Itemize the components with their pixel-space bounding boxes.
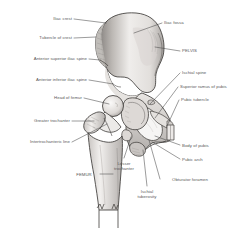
label-pelvis: PELVIS [182, 48, 212, 53]
label-anterior-inferior-iliac-spine: Anterior inferior iliac spine [5, 77, 87, 82]
label-tubercle-of-crest: Tubercle of crest [17, 35, 72, 40]
label-head-of-femur: Head of femur [35, 95, 82, 100]
label-pubic-tubercle: Pubic tubercle [181, 97, 227, 102]
acetabulum-ischium-pubis-group [121, 93, 174, 156]
label-ischial-spine: Ischial spine [182, 70, 222, 75]
label-anterior-superior-iliac-spine: Anterior superior iliac spine [2, 56, 87, 61]
label-iliac-fossa: Iliac fossa [164, 20, 202, 25]
label-iliac-crest: Iliac crest [28, 16, 72, 21]
leader-pubic-arch [152, 142, 180, 159]
ilium-group [96, 13, 164, 107]
label-obturator-foramen: Obturator foramen [161, 177, 219, 182]
label-intertrochanteric-line: Intertrochanteric line [8, 139, 70, 144]
leader-tubercle-of-crest [74, 37, 96, 38]
label-body-of-pubis: Body of pubis [182, 143, 227, 148]
label-femur: FEMUR [70, 172, 98, 177]
leader-pubic-tubercle [167, 100, 179, 126]
label-ischial-tuberosity: Ischial tuberosity [134, 189, 160, 199]
label-superior-ramus-of-pubis: Superior ramus of pubis [180, 84, 250, 89]
leader-iliac-crest [74, 19, 106, 23]
anatomy-figure-page: Iliac crestTubercle of crestAnterior sup… [0, 0, 250, 233]
label-lesser-trochanter: Lesser trochanter [111, 161, 137, 171]
leader-ischial-tuberosity [143, 150, 147, 186]
label-pubic-arch: Pubic arch [182, 157, 220, 162]
label-greater-trochanter: Greater trochanter [14, 118, 70, 123]
